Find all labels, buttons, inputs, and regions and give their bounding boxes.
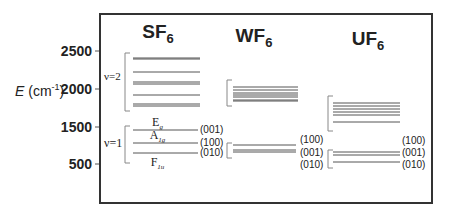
level-bracket bbox=[328, 150, 333, 168]
molecule-title: SF6 bbox=[142, 21, 174, 46]
axis-tick-label: 2500 bbox=[61, 43, 92, 59]
y-axis-label: E (cm-1) bbox=[15, 82, 64, 99]
level-bracket bbox=[125, 53, 130, 111]
mode-label: (010) bbox=[200, 147, 223, 158]
molecule-columns: SF6ν=2ν=1(001)Eg(100)A1g(010)F1uWF6(100)… bbox=[104, 21, 425, 171]
molecule-sf6: SF6ν=2ν=1(001)Eg(100)A1g(010)F1u bbox=[104, 21, 223, 171]
molecule-wf6: WF6(100)(001)(010) bbox=[227, 25, 323, 170]
level-bracket bbox=[125, 126, 130, 163]
level-bracket bbox=[227, 80, 232, 106]
mode-label: (001) bbox=[300, 147, 323, 158]
mode-label: (001) bbox=[402, 147, 425, 158]
molecule-uf6: UF6(100)(001)(010) bbox=[328, 28, 425, 170]
axis-tick-label: 2000 bbox=[61, 81, 92, 97]
mode-label: (100) bbox=[300, 134, 323, 145]
symmetry-label: F1u bbox=[151, 155, 165, 171]
level-bracket bbox=[227, 143, 232, 158]
mode-label: (010) bbox=[402, 159, 425, 170]
v2-label: ν=2 bbox=[104, 70, 121, 82]
level-bracket bbox=[328, 96, 333, 131]
energy-level-diagram: 250020001500500E (cm-1) SF6ν=2ν=1(001)Eg… bbox=[0, 0, 450, 216]
mode-label: (001) bbox=[200, 124, 223, 135]
mode-label: (100) bbox=[402, 135, 425, 146]
y-axis: 250020001500500E (cm-1) bbox=[15, 43, 100, 172]
molecule-title: UF6 bbox=[352, 28, 385, 53]
molecule-title: WF6 bbox=[236, 25, 273, 50]
axis-tick-label: 1500 bbox=[61, 119, 92, 135]
axis-tick-label: 500 bbox=[69, 156, 93, 172]
v1-label: ν=1 bbox=[104, 136, 122, 150]
mode-label: (010) bbox=[300, 159, 323, 170]
